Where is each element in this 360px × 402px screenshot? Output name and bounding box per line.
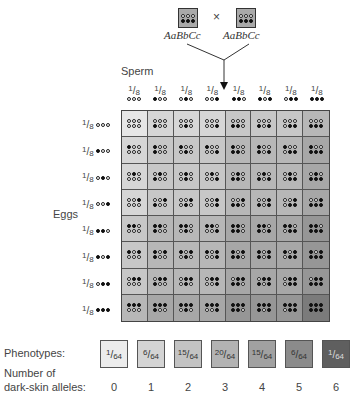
offspring-alleles-from-sperm [174,308,199,312]
dark-allele-icon [267,203,271,207]
dark-allele-icon [153,255,157,259]
light-allele-icon [137,97,141,101]
light-allele-icon [137,177,141,181]
light-allele-icon [137,282,141,286]
offspring-alleles-from-egg [226,250,251,254]
dark-allele-icon [257,282,261,286]
offspring-alleles-from-sperm [174,124,199,128]
dark-allele-icon [293,198,297,202]
offspring-alleles-from-egg [174,145,199,149]
offspring-alleles-from-egg [277,172,302,176]
light-allele-icon [132,177,136,181]
alleles-label-line1: Number of [4,367,55,379]
offspring-genotype-cell [251,216,277,242]
dark-allele-icon [257,124,261,128]
dark-allele-icon [101,282,105,286]
offspring-genotype-cell [277,164,303,190]
egg-gamete-alleles [96,308,110,312]
sperm-gamete-header: 1/8 [173,84,199,101]
dark-allele-icon [237,97,241,101]
dark-allele-icon [293,308,297,312]
egg-gamete-alleles [96,123,110,127]
dark-allele-icon [236,277,240,281]
offspring-alleles-from-sperm [303,255,329,259]
light-allele-icon [205,203,209,207]
light-allele-icon [283,255,287,259]
phenotype-box: 1/64 [322,340,350,368]
offspring-alleles-from-sperm [277,203,302,207]
dark-allele-icon [241,250,245,254]
offspring-alleles-from-egg [277,277,302,281]
dark-allele-icon [309,124,313,128]
light-allele-icon [184,250,188,254]
light-allele-icon [241,308,245,312]
light-allele-icon [127,172,131,176]
offspring-alleles-from-egg [226,145,251,149]
offspring-genotype-cell [148,111,174,137]
dark-allele-icon [231,145,235,149]
dark-allele-icon [184,124,188,128]
light-allele-icon [127,150,131,154]
offspring-genotype-cell [122,242,148,268]
offspring-genotype-cell [226,164,252,190]
dark-allele-icon [210,224,214,228]
dark-allele-icon [158,277,162,281]
egg-gamete-fraction: 1/8 [82,118,94,131]
light-allele-icon [132,250,136,254]
offspring-alleles-from-egg [122,119,147,123]
offspring-alleles-from-egg [174,277,199,281]
offspring-alleles-from-sperm [226,203,251,207]
offspring-genotype-cell [148,216,174,242]
offspring-alleles-from-sperm [148,229,173,233]
light-allele-icon [314,198,318,202]
offspring-alleles-from-egg [148,277,173,281]
light-allele-icon [163,150,167,154]
dark-allele-icon [267,308,271,312]
offspring-genotype-cell [303,242,329,268]
dark-allele-icon [314,150,318,154]
offspring-genotype-cell [200,111,226,137]
dark-allele-count: 1 [141,381,161,393]
offspring-genotype-cell [174,164,200,190]
light-allele-icon [179,97,183,101]
phenotype-box: 15/64 [248,340,276,368]
light-allele-icon [158,282,162,286]
dark-allele-icon [283,303,287,307]
light-allele-icon [262,255,266,259]
offspring-alleles-from-sperm [277,229,302,233]
light-allele-icon [267,119,271,123]
offspring-genotype-cell [277,269,303,295]
dark-allele-icon [153,224,157,228]
dark-allele-icon [262,172,266,176]
offspring-genotype-cell [251,137,277,163]
light-allele-icon [205,229,209,233]
light-allele-icon [179,282,183,286]
light-allele-icon [283,172,287,176]
light-allele-icon [283,282,287,286]
dark-allele-icon [293,250,297,254]
dark-allele-icon [267,229,271,233]
light-allele-icon [96,282,100,286]
light-allele-icon [137,145,141,149]
offspring-alleles-from-egg [200,172,225,176]
dark-allele-icon [215,308,219,312]
offspring-alleles-from-sperm [226,177,251,181]
offspring-alleles-from-egg [251,303,276,307]
offspring-alleles-from-egg [122,224,147,228]
dark-allele-icon [163,250,167,254]
offspring-alleles-from-egg [277,224,302,228]
light-allele-icon [137,255,141,259]
light-allele-icon [127,282,131,286]
light-allele-icon [158,255,162,259]
offspring-genotype-cell [200,295,226,321]
light-allele-icon [127,229,131,233]
light-allele-icon [158,150,162,154]
offspring-alleles-from-sperm [200,255,225,259]
light-allele-icon [189,172,193,176]
light-allele-icon [163,145,167,149]
offspring-alleles-from-egg [174,198,199,202]
light-allele-icon [293,145,297,149]
offspring-genotype-cell [226,295,252,321]
offspring-alleles-from-egg [226,224,251,228]
light-allele-icon [189,119,193,123]
